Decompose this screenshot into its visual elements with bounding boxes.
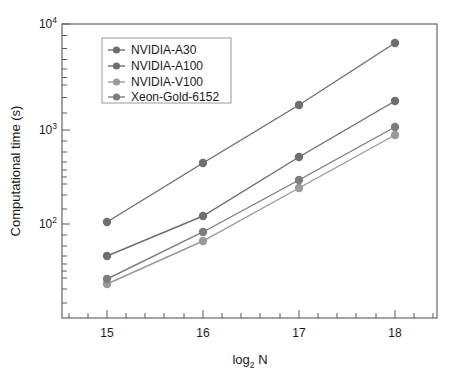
legend-marker-icon — [113, 78, 120, 85]
y-tick-label-1e4: 104 — [39, 15, 57, 31]
chart-svg: 104 103 102 Computational time (s) — [0, 0, 455, 380]
y-tick-labels: 104 103 102 — [39, 15, 57, 231]
x-tick-labels: 15 16 17 18 — [100, 326, 402, 340]
figure-container: 104 103 102 Computational time (s) — [0, 0, 455, 380]
data-point — [199, 159, 207, 167]
x-tick-label-18: 18 — [388, 326, 402, 340]
data-point — [103, 252, 111, 260]
y-tick-label-1e3: 103 — [39, 121, 57, 137]
data-point — [295, 101, 303, 109]
series-nvidia-a100 — [103, 97, 399, 260]
y-axis-ticks — [62, 24, 70, 303]
y-tick-label-1e2: 102 — [39, 215, 57, 231]
legend-label: NVIDIA-A100 — [131, 59, 203, 73]
data-point — [391, 123, 399, 131]
x-tick-label-16: 16 — [196, 326, 210, 340]
data-point — [295, 153, 303, 161]
legend-label: NVIDIA-A30 — [131, 43, 197, 57]
data-point — [391, 39, 399, 47]
legend-marker-icon — [113, 62, 120, 69]
legend-marker-icon — [113, 46, 120, 53]
x-axis-ticks — [69, 310, 433, 318]
data-point — [391, 97, 399, 105]
legend-marker-icon — [113, 93, 120, 100]
data-point — [295, 176, 303, 184]
legend: NVIDIA-A30 NVIDIA-A100 NVIDIA-V100 Xeon-… — [102, 38, 231, 104]
series-line-xeon-gold-6152 — [107, 127, 395, 279]
data-point — [199, 212, 207, 220]
y-axis-title: Computational time (s) — [8, 106, 23, 237]
legend-label: Xeon-Gold-6152 — [131, 90, 219, 104]
data-point — [391, 131, 399, 139]
legend-label: NVIDIA-V100 — [131, 75, 203, 89]
series-nvidia-v100 — [103, 131, 399, 288]
data-point — [199, 228, 207, 236]
x-tick-label-15: 15 — [100, 326, 114, 340]
data-point — [103, 275, 111, 283]
series-xeon-gold-6152 — [103, 123, 399, 283]
x-tick-label-17: 17 — [292, 326, 306, 340]
x-axis-title: log2 N — [232, 352, 267, 370]
data-point — [199, 237, 207, 245]
series-line-nvidia-a100 — [107, 101, 395, 256]
data-point — [103, 218, 111, 226]
series-line-nvidia-v100 — [107, 135, 395, 284]
data-point — [295, 184, 303, 192]
